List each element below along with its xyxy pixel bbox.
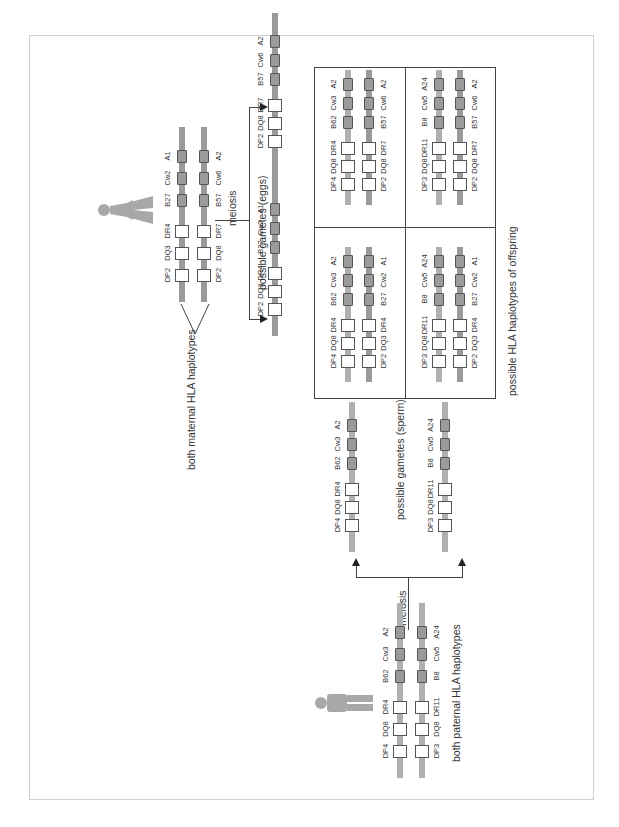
allele-label: DP4 xyxy=(329,354,338,369)
allele-label: Cw5 xyxy=(426,436,435,451)
figure-frame xyxy=(29,35,594,800)
meiosis-bracket xyxy=(356,577,463,578)
allele-label: DP4 xyxy=(381,744,390,759)
allele-label: Cw2 xyxy=(163,170,172,185)
allele-label: B27 xyxy=(470,292,479,305)
allele-label: Cw3 xyxy=(329,272,338,287)
allele-label: DQ3 xyxy=(256,283,265,298)
allele-label: DR4 xyxy=(470,317,479,332)
paternal-chromosome-2: DP3 DQ8 DR11 B8 Cw5 A24 xyxy=(411,603,433,778)
male-figure-icon xyxy=(314,688,374,718)
allele-label: A24 xyxy=(420,254,429,267)
allele-label: A1 xyxy=(256,204,265,213)
allele-label: DQ8 xyxy=(256,115,265,130)
maternal-chromosome-1: DP2 DQ3 DR4 B27 Cw2 A1 xyxy=(171,127,193,302)
arrow-shaft xyxy=(356,565,357,577)
allele-label: B62 xyxy=(333,456,342,469)
allele-label: B8 xyxy=(432,671,441,680)
allele-label: B57 xyxy=(214,193,223,206)
allele-label: DQ8 xyxy=(470,158,479,173)
offspring-egg-chromosome: DP2 DQ3 DR4 B27 Cw2 A1 xyxy=(449,247,471,382)
allele-label: DQ8 xyxy=(420,158,429,173)
allele-label: DP3 xyxy=(420,354,429,369)
allele-label: B62 xyxy=(329,115,338,128)
offspring-egg-chromosome: DP2 DQ8 DR7 B57 Cw6 A2 xyxy=(449,70,471,205)
maternal-chromosome-2: DP2 DQ8 DR7 B57 Cw6 A2 xyxy=(193,127,215,302)
allele-label: Cw6 xyxy=(256,52,265,67)
paternal-chromosome-1: DP4 DQ8 DR4 B62 Cw3 A2 xyxy=(389,603,411,778)
sperm-chromosome-2: DP3 DQ8 DR11 B8 Cw5 A24 xyxy=(434,402,456,552)
arrow-head-icon xyxy=(458,558,466,566)
offspring-sperm-chromosome: DP3 DQ8 DR11 B8 Cw5 A24 xyxy=(428,70,450,205)
allele-label: DP2 xyxy=(379,354,388,369)
allele-label: DR7 xyxy=(214,223,223,238)
allele-label: DR4 xyxy=(333,481,342,496)
allele-label: B57 xyxy=(470,115,479,128)
allele-label: DP3 xyxy=(420,177,429,192)
allele-label: A2 xyxy=(381,627,390,636)
allele-label: DQ8 xyxy=(333,499,342,514)
allele-label: DQ8 xyxy=(379,158,388,173)
allele-label: A1 xyxy=(470,256,479,265)
allele-label: DR4 xyxy=(381,699,390,714)
allele-label: A2 xyxy=(470,79,479,88)
allele-label: Cw3 xyxy=(333,436,342,451)
allele-label: DR7 xyxy=(470,140,479,155)
allele-label: DQ3 xyxy=(470,335,479,350)
allele-label: B27 xyxy=(163,193,172,206)
allele-label: DP4 xyxy=(333,518,342,533)
allele-label: B57 xyxy=(256,72,265,85)
paternal-haplotypes-label: both paternal HLA haplotypes xyxy=(450,624,462,762)
allele-label: A2 xyxy=(329,256,338,265)
offspring-sperm-chromosome: DP4 DQ8 DR4 B62 Cw3 A2 xyxy=(337,70,359,205)
allele-label: A2 xyxy=(333,420,342,429)
allele-label: B8 xyxy=(420,117,429,126)
allele-label: B8 xyxy=(420,294,429,303)
allele-label: B62 xyxy=(329,292,338,305)
allele-label: B8 xyxy=(426,458,435,467)
offspring-sperm-chromosome: DP3 DQ8 DR11 B8 Cw5 A24 xyxy=(428,247,450,382)
allele-label: DR4 xyxy=(256,265,265,280)
meiosis-label: meiosis xyxy=(226,190,238,226)
offspring-label: possible HLA haplotypes of offspring xyxy=(506,226,518,396)
sperm-label: possible gametes (sperm) xyxy=(394,399,406,520)
allele-label: Cw2 xyxy=(470,272,479,287)
allele-label: DR11 xyxy=(420,139,429,158)
offspring-sperm-chromosome: DP4 DQ8 DR4 B62 Cw3 A2 xyxy=(337,247,359,382)
allele-label: DP2 xyxy=(256,134,265,149)
allele-label: DR11 xyxy=(432,698,441,717)
offspring-egg-chromosome: DP2 DQ3 DR4 B27 Cw2 A1 xyxy=(358,247,380,382)
allele-label: DP2 xyxy=(256,302,265,317)
allele-label: B27 xyxy=(256,240,265,253)
allele-label: A24 xyxy=(420,77,429,90)
allele-label: Cw6 xyxy=(379,95,388,110)
allele-label: DQ8 xyxy=(420,335,429,350)
allele-label: DR4 xyxy=(329,317,338,332)
allele-label: A1 xyxy=(163,151,172,160)
arrow-head-icon xyxy=(352,558,360,566)
allele-label: DP4 xyxy=(329,177,338,192)
allele-label: DQ8 xyxy=(432,721,441,736)
allele-label: Cw3 xyxy=(329,95,338,110)
allele-label: DQ8 xyxy=(329,335,338,350)
allele-label: DQ8 xyxy=(426,499,435,514)
allele-label: A24 xyxy=(426,418,435,431)
allele-label: DR11 xyxy=(426,480,435,499)
allele-label: DQ8 xyxy=(214,245,223,260)
allele-label: DP2 xyxy=(379,177,388,192)
arrow-shaft xyxy=(462,565,463,577)
egg-chromosome-1: DP2 DQ3 DR4 B27 Cw2 A1 xyxy=(264,161,286,336)
allele-label: A24 xyxy=(432,625,441,638)
allele-label: Cw6 xyxy=(214,170,223,185)
allele-label: DQ3 xyxy=(163,245,172,260)
allele-label: DQ3 xyxy=(379,335,388,350)
allele-label: Cw5 xyxy=(432,646,441,661)
sperm-chromosome-1: DP4 DQ8 DR4 B62 Cw3 A2 xyxy=(341,402,363,552)
grid-divider xyxy=(315,227,495,228)
female-figure-icon xyxy=(97,195,155,225)
maternal-haplotypes-label: both maternal HLA haplotypes xyxy=(185,329,197,470)
allele-label: DQ8 xyxy=(381,721,390,736)
allele-label: DP3 xyxy=(426,518,435,533)
egg-chromosome-2: DP2 DQ8 DR7 B57 Cw6 A2 xyxy=(264,13,286,168)
allele-label: DP2 xyxy=(470,354,479,369)
